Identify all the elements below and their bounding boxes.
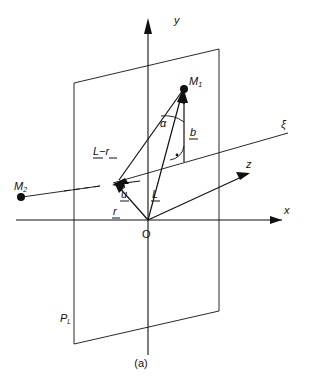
x-axis-label: x xyxy=(283,204,290,216)
x-axis-arrowhead xyxy=(270,216,282,224)
point-m2-label: M2 xyxy=(14,180,27,193)
figure-container: M2 M1 y x z O ξ L−r u r L xyxy=(0,0,312,383)
xi-line-right-segment xyxy=(113,133,288,183)
label-r: r xyxy=(112,205,120,218)
point-m2-marker xyxy=(17,193,25,201)
point-m1: M1 xyxy=(180,75,202,93)
point-m1-marker xyxy=(180,85,188,93)
right-angle-dot xyxy=(176,154,179,157)
plane-pl-label: PL xyxy=(60,312,71,325)
z-axis-label: z xyxy=(245,158,252,170)
right-angle-marker xyxy=(170,146,184,160)
label-l-text: L xyxy=(152,188,158,200)
vector-l xyxy=(148,89,185,220)
label-r-text: r xyxy=(113,205,118,217)
vector-r xyxy=(114,182,148,220)
label-l: L xyxy=(151,188,160,201)
label-u: u xyxy=(120,188,129,201)
vector-b xyxy=(180,90,188,162)
label-l-minus-r: L−r xyxy=(93,145,117,158)
z-axis-line xyxy=(148,174,248,220)
y-axis xyxy=(144,18,152,355)
y-axis-label: y xyxy=(173,14,181,26)
label-b-text: b xyxy=(190,126,196,138)
figure-caption: (a) xyxy=(134,357,147,369)
y-axis-arrowhead xyxy=(144,18,152,34)
point-m1-label: M1 xyxy=(189,75,202,88)
right-angle-arc xyxy=(170,146,184,160)
plane-pl-outline xyxy=(74,49,219,344)
point-m2: M2 xyxy=(14,180,27,201)
vector-l-minus-r-line xyxy=(119,90,183,180)
plane-pl xyxy=(74,49,219,344)
z-axis xyxy=(148,172,250,220)
geometry-diagram: M2 M1 y x z O ξ L−r u r L xyxy=(0,0,312,383)
angle-alpha-label: α xyxy=(160,117,167,129)
xi-label: ξ xyxy=(281,118,287,131)
origin-label: O xyxy=(142,228,151,240)
label-l-minus-r-text: L−r xyxy=(93,145,111,157)
label-u-text: u xyxy=(121,188,127,200)
label-b: b xyxy=(189,126,198,139)
